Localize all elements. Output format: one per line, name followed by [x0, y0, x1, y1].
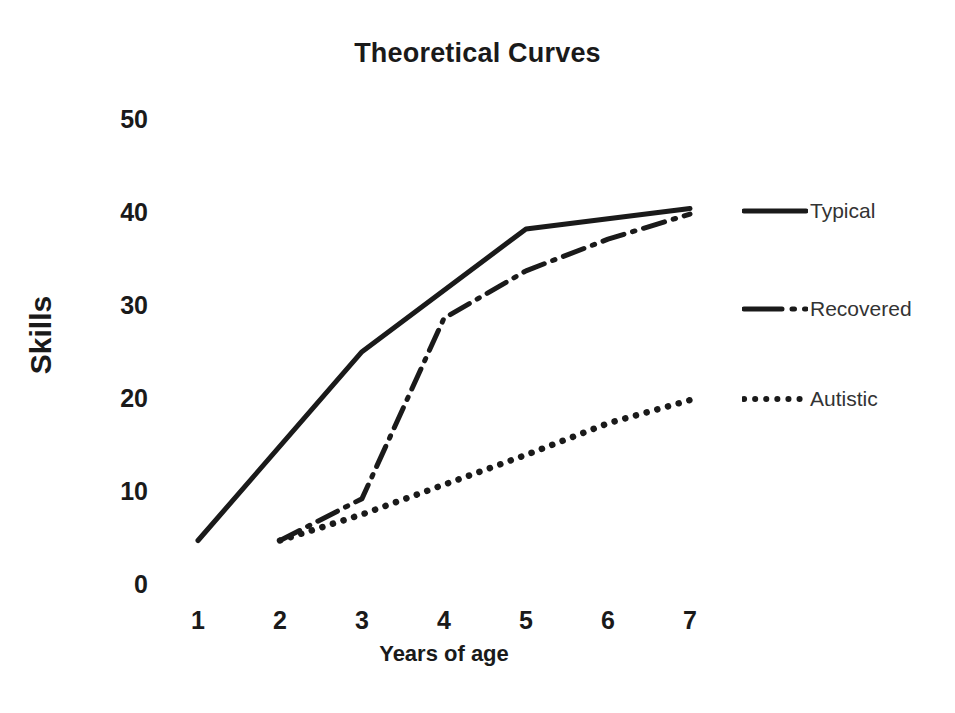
- dash-dot-line-swatch: [742, 302, 808, 316]
- legend-item-autistic[interactable]: Autistic: [742, 386, 878, 412]
- legend-item-recovered[interactable]: Recovered: [742, 296, 912, 322]
- plot-area: [0, 0, 955, 713]
- legend-label: Typical: [808, 199, 875, 223]
- data-series-group: [198, 208, 690, 540]
- series-line-typical: [198, 208, 690, 540]
- series-line-autistic: [280, 400, 690, 540]
- dotted-line-swatch: [742, 392, 808, 406]
- legend-item-typical[interactable]: Typical: [742, 198, 875, 224]
- legend-label: Autistic: [808, 387, 878, 411]
- theoretical-curves-chart: Theoretical Curves Skills Years of age 0…: [0, 0, 955, 713]
- solid-line-swatch: [742, 204, 808, 218]
- legend-label: Recovered: [808, 297, 912, 321]
